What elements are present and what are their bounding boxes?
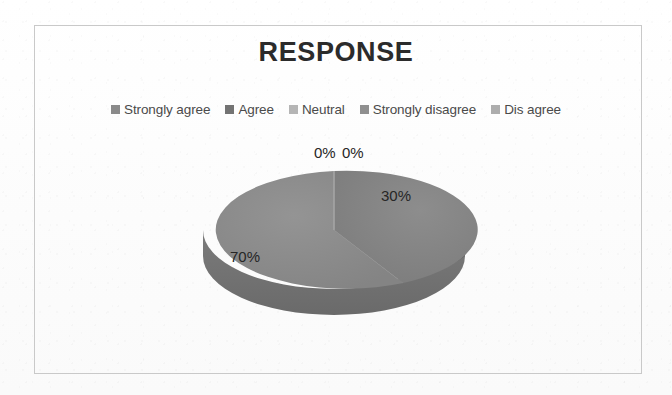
pie-data-label-strongly-disagree: 0% [342,144,364,161]
pie-data-label-agree: 30% [381,187,411,204]
legend-square-icon [289,105,298,114]
chart-legend: Strongly agree Agree Neutral Strongly di… [0,102,672,117]
legend-square-icon [225,105,234,114]
legend-item-label: Dis agree [504,102,561,117]
legend-item-neutral[interactable]: Neutral [289,102,345,117]
legend-item-agree[interactable]: Agree [225,102,274,117]
legend-item-strongly-agree[interactable]: Strongly agree [111,102,210,117]
legend-item-label: Neutral [302,102,345,117]
chart-screenshot: RESPONSE Strongly agree Agree Neutral St… [0,0,672,395]
legend-square-icon [360,105,369,114]
legend-item-strongly-disagree[interactable]: Strongly disagree [360,102,476,117]
pie-data-label-neutral: 0% [314,144,336,161]
legend-item-label: Strongly disagree [373,102,476,117]
chart-title: RESPONSE [0,37,672,68]
legend-square-icon [491,105,500,114]
pie-data-label-strongly-agree: 70% [230,248,260,265]
legend-item-label: Agree [238,102,274,117]
legend-item-dis-agree[interactable]: Dis agree [491,102,561,117]
legend-item-label: Strongly agree [124,102,210,117]
legend-square-icon [111,105,120,114]
